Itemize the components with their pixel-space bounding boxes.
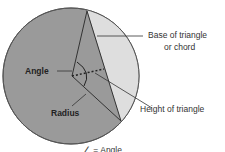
angle-label: Angle: [25, 66, 49, 76]
base-label: Base of triangle: [148, 30, 207, 40]
height-label: Height of triangle: [140, 104, 204, 114]
circle-diagram: [0, 0, 225, 152]
base-label-line2: or chord: [164, 42, 195, 52]
legend-label: ∠ = Angle: [83, 145, 122, 152]
radius-label: Radius: [51, 108, 79, 118]
